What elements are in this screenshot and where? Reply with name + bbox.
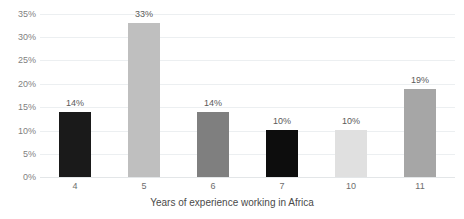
bar-value-label: 33%	[114, 9, 174, 19]
bar-value-label: 14%	[45, 98, 105, 108]
bar-value-label: 14%	[183, 98, 243, 108]
x-tick-label: 10	[321, 180, 381, 192]
bar[interactable]	[128, 23, 160, 177]
bar[interactable]	[266, 130, 298, 177]
bar-group-11: 19%	[404, 14, 436, 177]
bar[interactable]	[59, 112, 91, 177]
bar[interactable]	[335, 130, 367, 177]
y-tick-label: 5%	[2, 149, 36, 159]
bar-group-10: 10%	[335, 14, 367, 177]
bar-value-label: 19%	[390, 75, 450, 85]
y-tick-label: 35%	[2, 9, 36, 19]
bar[interactable]	[404, 89, 436, 177]
y-tick-label: 10%	[2, 126, 36, 136]
bars-layer: 14% 33% 14% 10% 10% 19%	[40, 14, 455, 177]
y-axis: 35% 30% 25% 20% 15% 10% 5% 0%	[0, 14, 36, 177]
x-tick-label: 5	[114, 180, 174, 192]
bar-value-label: 10%	[321, 116, 381, 126]
x-tick-label: 11	[390, 180, 450, 192]
x-axis: 4 5 6 7 10 11	[40, 180, 455, 194]
bar-chart: 35% 30% 25% 20% 15% 10% 5% 0% 14% 33% 14…	[0, 0, 464, 219]
y-tick-label: 25%	[2, 55, 36, 65]
gridline-0-baseline	[40, 177, 455, 178]
y-tick-label: 30%	[2, 32, 36, 42]
y-tick-label: 15%	[2, 102, 36, 112]
bar-group-6: 14%	[197, 14, 229, 177]
bar[interactable]	[197, 112, 229, 177]
y-tick-label: 20%	[2, 79, 36, 89]
bar-group-5: 33%	[128, 14, 160, 177]
x-tick-label: 7	[252, 180, 312, 192]
x-tick-label: 4	[45, 180, 105, 192]
x-axis-title: Years of experience working in Africa	[0, 197, 464, 209]
bar-value-label: 10%	[252, 116, 312, 126]
bar-group-7: 10%	[266, 14, 298, 177]
y-tick-label: 0%	[2, 172, 36, 182]
x-tick-label: 6	[183, 180, 243, 192]
bar-group-4: 14%	[59, 14, 91, 177]
